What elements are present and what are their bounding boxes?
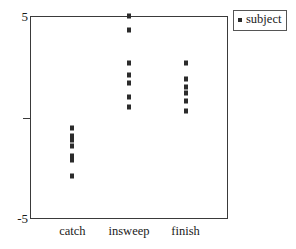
legend-entry-label: subject [246,13,281,27]
x-axis-label-insweep: insweep [109,225,150,238]
legend: subject [233,10,287,31]
data-point [127,28,131,33]
data-point [184,109,188,114]
data-point [127,60,131,65]
data-point [70,125,74,130]
data-point [184,99,188,104]
data-point [184,60,188,65]
x-axis-label-catch: catch [59,225,85,238]
y-axis-label-max: 5 [10,10,28,23]
data-point [70,143,74,148]
data-point [70,158,74,163]
data-point [70,137,74,142]
scatter-chart: 5 -5 catchinsweepfinish subject [0,0,296,249]
y-axis-label-min: -5 [8,212,28,225]
data-point [127,95,131,100]
data-point [184,76,188,81]
x-axis-label-finish: finish [171,225,199,238]
data-point [184,85,188,90]
data-point [127,14,131,19]
data-point [127,105,131,110]
data-point [127,72,131,77]
data-point [184,91,188,96]
legend-marker-icon [238,18,242,22]
plot-area [30,16,228,219]
data-point [127,80,131,85]
data-point [70,174,74,179]
